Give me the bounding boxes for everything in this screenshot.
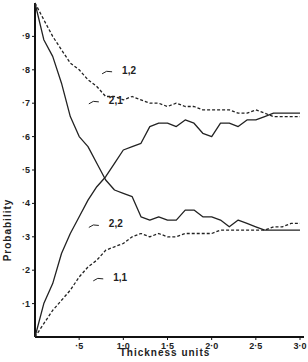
x-tick-label: ·5 bbox=[75, 341, 83, 351]
y-tick-label: ·7 bbox=[22, 98, 30, 108]
y-tick-label: ·5 bbox=[22, 165, 30, 175]
y-tick-label: ·3 bbox=[22, 232, 30, 242]
y-axis-label: Probability bbox=[2, 199, 13, 262]
y-tick-label: ·6 bbox=[22, 132, 30, 142]
series-1-1 bbox=[35, 223, 300, 337]
y-tick-label: ·9 bbox=[22, 31, 30, 41]
x-tick-label: 3·0 bbox=[293, 341, 306, 351]
y-tick-label: ·2 bbox=[22, 265, 30, 275]
series-2-1 bbox=[35, 3, 300, 230]
series-1-2 bbox=[35, 3, 300, 117]
axes bbox=[32, 3, 304, 340]
annotations: 1,22,12,21,1 bbox=[89, 65, 137, 283]
x-axis-label: Thickness units bbox=[120, 347, 211, 358]
series-lines bbox=[35, 3, 300, 337]
label-2-2: 2,2 bbox=[109, 218, 123, 229]
label-1-2: 1,2 bbox=[122, 65, 136, 76]
y-tick-label: ·4 bbox=[22, 198, 30, 208]
y-tick-label: ·8 bbox=[22, 65, 30, 75]
series-2-2 bbox=[35, 113, 300, 337]
tick-labels: ·1·2·3·4·5·6·7·8·9·51·01·52·02·53·0 bbox=[22, 31, 307, 351]
label-2-1: 2,1 bbox=[109, 95, 123, 106]
label-1-1: 1,1 bbox=[113, 272, 127, 283]
x-tick-label: 2·5 bbox=[249, 341, 262, 351]
y-tick-label: ·1 bbox=[22, 299, 30, 309]
probability-chart: ·1·2·3·4·5·6·7·8·9·51·01·52·02·53·0 1,22… bbox=[0, 0, 308, 362]
